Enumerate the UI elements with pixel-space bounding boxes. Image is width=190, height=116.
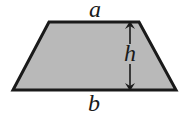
label-top-base-a: a	[89, 0, 101, 22]
trapezoid-shape	[13, 22, 176, 90]
trapezoid-diagram: a h b	[0, 0, 190, 116]
label-height-h: h	[124, 40, 136, 66]
label-bottom-base-b: b	[88, 90, 100, 116]
